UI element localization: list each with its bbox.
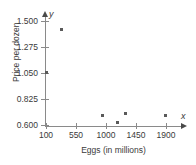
x-axis-variable-symbol: x — [181, 112, 186, 121]
x-axis-line — [45, 126, 182, 127]
y-axis-title: Price per dozen — [12, 6, 21, 98]
y-axis-tick — [41, 99, 49, 100]
x-axis-arrow-icon — [181, 123, 187, 129]
data-point — [124, 112, 127, 115]
x-axis-tick-label: 1900 — [146, 131, 186, 140]
y-axis-tick-label: 0.600 — [17, 121, 38, 130]
y-axis-variable-symbol: y — [49, 10, 54, 19]
data-point — [45, 71, 48, 74]
scatter-chart: y x 0.6000.8251.0501.2751.500 1005501000… — [0, 0, 196, 165]
x-axis-title: Eggs (in millions) — [45, 146, 182, 155]
data-point — [116, 121, 119, 124]
data-point — [164, 114, 167, 117]
x-axis-tick — [76, 123, 77, 129]
data-point — [60, 28, 63, 31]
y-axis-tick — [41, 47, 49, 48]
x-axis-tick — [46, 123, 47, 129]
y-axis-tick — [41, 21, 49, 22]
y-axis-tick — [41, 125, 49, 126]
x-axis-tick — [136, 123, 137, 129]
x-axis-tick — [166, 123, 167, 129]
y-axis-arrow-icon — [42, 11, 48, 17]
x-axis-tick — [106, 123, 107, 129]
data-point — [101, 114, 104, 117]
